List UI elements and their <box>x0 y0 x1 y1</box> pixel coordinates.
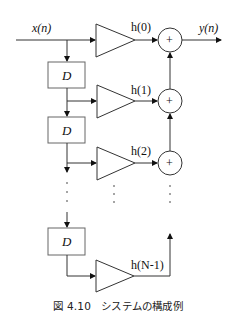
delay-label-2: D <box>61 123 72 138</box>
gain-triangle-1 <box>97 85 135 118</box>
continuation-dots <box>66 182 171 203</box>
coef-label-last: h(N-1) <box>131 258 164 272</box>
sum-sign-2: + <box>166 156 173 170</box>
fir-filter-diagram: x(n) y(n) h(0) h(1) h(2) h(N-1) D D D + … <box>0 0 236 322</box>
figure-caption: 図 4.10 システムの構成例 <box>0 298 236 313</box>
sum-sign-1: + <box>166 94 173 108</box>
delay-label-3: D <box>61 234 72 249</box>
sum-sign-0: + <box>166 33 173 47</box>
gain-triangle-last <box>96 260 134 292</box>
coef-label-2: h(2) <box>131 144 151 158</box>
coef-label-1: h(1) <box>131 83 151 97</box>
gain-triangle-0 <box>96 24 135 57</box>
delay-label-1: D <box>61 68 72 83</box>
gain-triangle-2 <box>97 147 135 180</box>
coef-label-0: h(0) <box>131 20 151 34</box>
input-label: x(n) <box>31 21 51 35</box>
output-label: y(n) <box>198 21 218 35</box>
